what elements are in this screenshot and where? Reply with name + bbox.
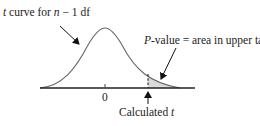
calculated-label-t: t xyxy=(171,106,175,118)
curve-label: t curve for n − 1 df xyxy=(3,6,90,18)
zero-tick-label: 0 xyxy=(102,91,108,103)
calculated-label-prefix: Calculated xyxy=(119,106,171,118)
t-distribution-diagram: t curve for n − 1 df P-value = area in u… xyxy=(0,0,260,126)
calculated-t-label: Calculated t xyxy=(119,106,175,118)
curve-label-suffix: − 1 df xyxy=(60,6,91,18)
upper-tail-shaded-area xyxy=(148,75,180,88)
pvalue-label-suffix: -value = area in upper tail xyxy=(151,34,260,47)
pvalue-label-p: P xyxy=(143,34,151,46)
pvalue-label: P-value = area in upper tail xyxy=(143,34,260,47)
pvalue-label-arrow xyxy=(161,48,176,79)
curve-label-arrow xyxy=(60,26,79,44)
curve-label-mid: curve for xyxy=(6,6,54,18)
